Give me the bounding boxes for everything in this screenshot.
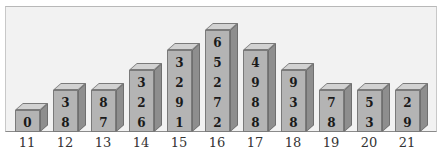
bar-front-face: 29 [395, 90, 420, 132]
bar-side-face [192, 43, 200, 132]
bar-side-face [40, 103, 48, 132]
bar-11: 0 [15, 110, 49, 132]
bar-19: 78 [319, 90, 353, 132]
bar-digit: 0 [23, 113, 31, 133]
x-tick-label: 18 [273, 135, 313, 150]
bar-digit: 7 [327, 93, 335, 113]
bar-digit: 4 [251, 53, 259, 73]
bar-14: 326 [129, 70, 163, 132]
bar-digit: 8 [61, 113, 69, 133]
bar-digit: 9 [403, 113, 411, 133]
bar-side-face [306, 63, 314, 132]
bar-front-face: 0 [15, 110, 40, 132]
x-tick-label: 20 [349, 135, 389, 150]
bar-side-face [230, 23, 238, 132]
bar-front-face: 38 [53, 90, 78, 132]
bar-front-face: 326 [129, 70, 154, 132]
x-tick-label: 13 [83, 135, 123, 150]
bar-digit: 5 [213, 53, 221, 73]
bar-digit: 9 [289, 73, 297, 93]
x-tick-label: 14 [121, 135, 161, 150]
x-tick-label: 16 [197, 135, 237, 150]
bar-digit: 9 [175, 93, 183, 113]
bar-side-face [116, 83, 124, 132]
x-tick-label: 12 [45, 135, 85, 150]
bar-digit: 3 [61, 93, 69, 113]
bar-21: 29 [395, 90, 429, 132]
bar-12: 38 [53, 90, 87, 132]
x-tick-label: 19 [311, 135, 351, 150]
bar-18: 938 [281, 70, 315, 132]
bar-digit: 3 [365, 113, 373, 133]
bar-front-face: 65272 [205, 30, 230, 132]
bar-16: 65272 [205, 30, 239, 132]
bar-front-face: 3291 [167, 50, 192, 132]
bar-digit: 7 [213, 93, 221, 113]
bar-digit: 8 [289, 113, 297, 133]
bar-digit: 3 [137, 73, 145, 93]
bar-digit: 9 [251, 73, 259, 93]
bar-digit: 6 [213, 33, 221, 53]
bar-13: 87 [91, 90, 125, 132]
bar-digit: 2 [403, 93, 411, 113]
bar-front-face: 53 [357, 90, 382, 132]
bar-side-face [382, 83, 390, 132]
bar-side-face [268, 43, 276, 132]
bar-17: 4988 [243, 50, 277, 132]
bar-digit: 2 [213, 113, 221, 133]
bar-digit: 5 [365, 93, 373, 113]
bar-digit: 8 [99, 93, 107, 113]
bar-digit: 7 [99, 113, 107, 133]
bar-front-face: 938 [281, 70, 306, 132]
bar-front-face: 4988 [243, 50, 268, 132]
bar-front-face: 87 [91, 90, 116, 132]
bar-digit: 6 [137, 113, 145, 133]
bar-digit: 2 [175, 73, 183, 93]
x-tick-label: 21 [387, 135, 427, 150]
x-tick-label: 11 [7, 135, 47, 150]
bar-side-face [420, 83, 428, 132]
bar-digit: 8 [327, 113, 335, 133]
bar-digit: 3 [175, 53, 183, 73]
x-tick-label: 15 [159, 135, 199, 150]
bar-digit: 3 [289, 93, 297, 113]
bar-digit: 2 [213, 73, 221, 93]
bar-digit: 8 [251, 113, 259, 133]
bar-digit: 1 [175, 113, 183, 133]
bar-digit: 8 [251, 93, 259, 113]
bar-digit: 2 [137, 93, 145, 113]
bar-side-face [154, 63, 162, 132]
bar-20: 53 [357, 90, 391, 132]
bar-front-face: 78 [319, 90, 344, 132]
bar-15: 3291 [167, 50, 201, 132]
bar-side-face [344, 83, 352, 132]
bar-side-face [78, 83, 86, 132]
x-tick-label: 17 [235, 135, 275, 150]
